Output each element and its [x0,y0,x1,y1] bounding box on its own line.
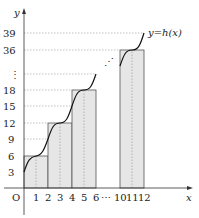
x-tick-5: 5 [81,192,87,203]
x-tick-12: 12 [138,192,151,203]
curve-label: y=h(x) [147,27,182,38]
x-tick-2: 2 [45,192,51,203]
diag-ellipsis: ⋰ [104,56,114,67]
x-tick-1: 1 [33,192,39,203]
x-axis-label: x [186,192,192,203]
y-axis-label: y [13,7,20,18]
riemann-diagram: ⋰ 3 6 9 12 15 18 ⋮ 36 39 O 1 2 3 4 5 6 ⋯… [0,0,199,218]
y-tick-vdots: ⋮ [10,69,20,80]
x-tick-3: 3 [57,192,63,203]
x-tick-4: 4 [69,192,75,203]
y-axis-arrow-icon [22,8,26,14]
y-tick-6: 6 [8,151,14,162]
x-tick-hdots: ⋯ [101,192,111,203]
y-tick-3: 3 [8,167,14,178]
y-tick-36: 36 [3,45,16,56]
y-tick-15: 15 [3,101,16,112]
y-tick-9: 9 [8,134,14,145]
x-tick-10: 10 [114,192,127,203]
origin-label: O [12,192,20,203]
x-tick-11: 11 [126,192,139,203]
x-tick-6: 6 [93,192,99,203]
x-axis-arrow-icon [187,186,193,190]
y-tick-39: 39 [3,28,16,39]
y-tick-18: 18 [3,85,16,96]
y-tick-12: 12 [3,118,16,129]
